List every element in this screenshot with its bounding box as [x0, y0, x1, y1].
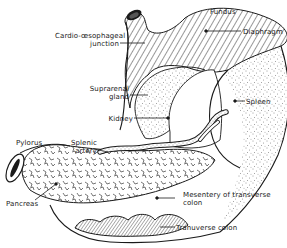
label-mesentery-line2: colon	[183, 199, 202, 207]
label-diaphragm: Diaphragm	[243, 28, 283, 36]
label-suprarenal-line1: Suprarenal	[85, 85, 129, 93]
diagram-drawing	[0, 0, 287, 248]
label-spleen: Spleen	[246, 98, 270, 106]
label-pancreas: Pancreas	[6, 200, 38, 208]
label-transverse-colon: Tranuverse colon	[176, 224, 237, 232]
label-pylorus: Pylorus	[16, 139, 42, 147]
label-splenic-artery-line1: Splenic	[62, 139, 97, 147]
stomach-bed-diagram: Fundus Diaphragm Cardio-œsophageal junct…	[0, 0, 287, 248]
spleen	[222, 45, 287, 238]
label-mesentery-line1: Mesentery of transverse	[183, 191, 271, 199]
label-cardio-oesophageal-line2: junction	[55, 40, 119, 48]
label-cardio-oesophageal-line1: Cardio-œsophageal	[55, 32, 119, 40]
label-kidney: Kidney	[95, 115, 133, 123]
transverse-colon	[75, 214, 188, 236]
label-suprarenal-line2: gland	[85, 93, 129, 101]
label-splenic-artery-line2: artery	[62, 147, 97, 155]
label-fundus: Fundus	[210, 8, 236, 16]
